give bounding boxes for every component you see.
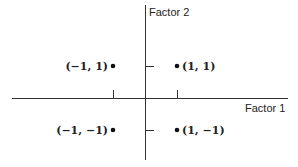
point-pos1-pos1: [175, 64, 180, 69]
point-label: (−1, 1): [65, 60, 108, 73]
y-axis-label: Factor 2: [149, 6, 189, 18]
point-label: (1, 1): [182, 60, 215, 73]
point-label: (−1, −1): [56, 124, 108, 137]
point-neg1-pos1: [111, 64, 116, 69]
point-pos1-neg1: [175, 128, 180, 133]
factor-plot: Factor 2 Factor 1 (−1, 1) (1, 1) (−1, −1…: [0, 0, 298, 167]
point-label: (1, −1): [182, 124, 225, 137]
x-axis-label: Factor 1: [245, 102, 285, 114]
point-neg1-neg1: [111, 128, 116, 133]
